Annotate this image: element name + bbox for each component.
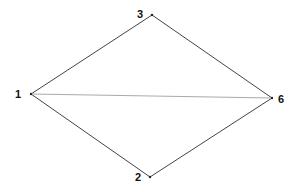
node-label-6: 6 [278, 94, 284, 105]
edge-1-2 [31, 94, 150, 177]
edge-1-6 [31, 94, 272, 98]
node-6 [271, 97, 273, 99]
edge-1-3 [31, 15, 152, 94]
node-label-1: 1 [15, 89, 21, 100]
node-3 [151, 14, 153, 16]
node-label-2: 2 [135, 172, 141, 183]
node-2 [149, 176, 151, 178]
edge-2-6 [150, 98, 272, 177]
graph-canvas [0, 0, 300, 192]
node-label-3: 3 [137, 9, 143, 20]
node-1 [30, 93, 32, 95]
edge-3-6 [152, 15, 272, 98]
